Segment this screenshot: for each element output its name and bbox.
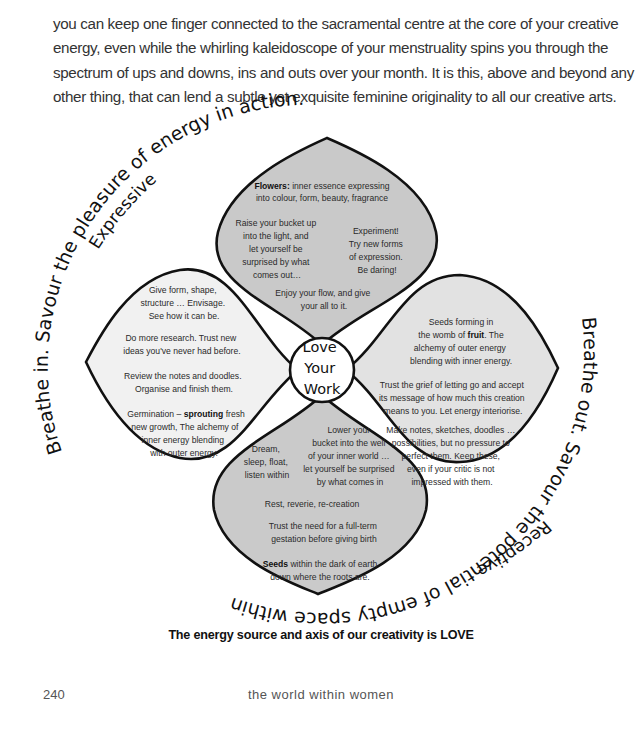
flowers-heading-line2: into colour, form, beauty, fragrance <box>256 193 388 203</box>
womb-of-fruit-line: the womb of fruit. The <box>418 330 504 340</box>
give-form-block: Give form, shape, structure … Envisage. … <box>141 285 228 321</box>
figure-caption: The energy source and axis of our creati… <box>0 628 642 642</box>
center-label: Love Your Work <box>303 339 342 397</box>
flowers-heading: Flowers: inner essence expressing <box>254 181 389 191</box>
rest-reverie-line: Rest, reverie, re-creation <box>265 499 360 509</box>
seeds-line: Seeds within the dark of earth <box>263 559 378 569</box>
seeds-forming-line: Seeds forming in <box>429 317 494 327</box>
germination-block: new growth, The alchemy of inner energy … <box>131 422 241 458</box>
running-footer-title: the world within women <box>0 687 642 702</box>
germination-line: Germination – sprouting fresh <box>127 409 245 419</box>
roots-line: down where the roots are. <box>270 572 369 582</box>
trust-grief-block: Trust the grief of letting go and accept… <box>379 380 527 416</box>
